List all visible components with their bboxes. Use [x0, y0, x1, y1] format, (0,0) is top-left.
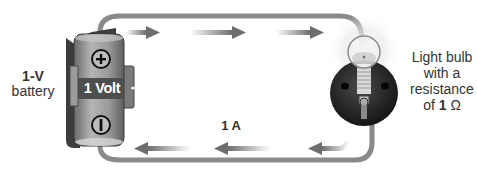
ohm-unit: Ω [447, 97, 461, 113]
bulb-label: Light bulb with a resistance of 1 Ω [408, 49, 476, 113]
arrow-right-icon [126, 26, 160, 39]
current-arrows-top [126, 26, 324, 39]
bulb-resistance-prefix: of [423, 97, 439, 113]
battery-body-text: 1 Volt [80, 79, 124, 98]
battery-voltage-label: 1-V [10, 69, 56, 84]
current-label: 1 A [216, 118, 246, 133]
bulb-label-line4: of 1 Ω [408, 97, 476, 113]
arrow-left-icon [214, 142, 270, 155]
bulb-resistance-value: 1 [439, 97, 447, 113]
circuit-diagram [0, 0, 477, 176]
minus-icon [92, 116, 110, 134]
battery-name-label: battery [10, 84, 56, 99]
light-bulb [328, 14, 400, 126]
bulb-label-line3: resistance [408, 81, 476, 97]
battery-label: 1-V battery [10, 69, 56, 99]
current-arrows-bottom [134, 140, 349, 155]
arrow-left-icon [134, 142, 190, 155]
arrow-right-icon [276, 26, 324, 39]
bulb-label-line2: with a [408, 65, 476, 81]
bulb-label-line1: Light bulb [408, 49, 476, 65]
plus-icon [92, 50, 110, 68]
arrow-left-icon [308, 140, 349, 155]
arrow-right-icon [190, 26, 246, 39]
